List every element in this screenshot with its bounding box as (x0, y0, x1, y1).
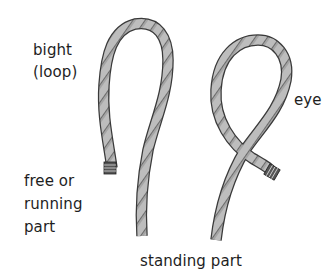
label-bight: bight (33, 41, 72, 59)
label-free-line3: part (24, 218, 55, 236)
label-standing-part: standing part (140, 252, 242, 270)
label-loop: (loop) (33, 63, 77, 81)
eye-rope (216, 40, 287, 240)
bight-rope (104, 23, 168, 236)
label-free-line2: running (24, 195, 83, 213)
label-eye: eye (294, 91, 322, 109)
label-free-line1: free or (24, 172, 74, 190)
